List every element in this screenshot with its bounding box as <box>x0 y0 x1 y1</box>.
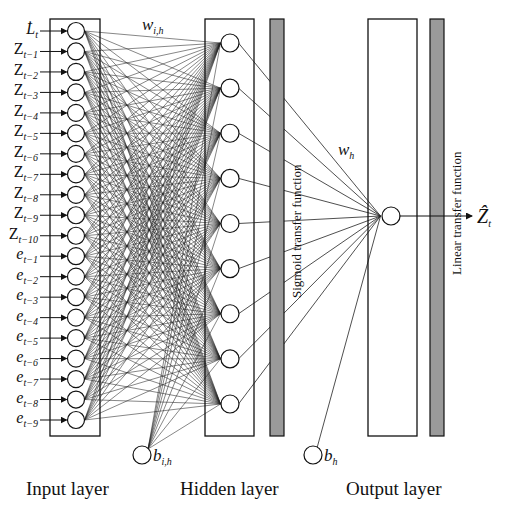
input-node <box>68 23 85 40</box>
hidden-node <box>221 34 239 52</box>
bias-node-ih <box>133 446 151 464</box>
sigmoid-transfer-label: Sigmoid transfer function <box>289 138 305 298</box>
input-node <box>68 43 85 60</box>
input-label-base: Z <box>14 184 24 201</box>
input-node <box>68 350 85 367</box>
input-label-sub: t−9 <box>23 213 38 224</box>
input-node <box>68 330 85 347</box>
bias-node-h <box>304 446 322 464</box>
output-label-base: Ẑ <box>477 205 488 227</box>
input-label-sub: t−4 <box>23 316 38 327</box>
input-label-sub: t−6 <box>23 152 38 163</box>
input-node <box>68 309 85 326</box>
weight-label-ih: wi,h <box>142 15 164 36</box>
hidden-node <box>221 124 239 142</box>
input-label-sub: t−7 <box>23 377 38 388</box>
input-node <box>68 84 85 101</box>
hidden-node <box>221 395 239 413</box>
input-label-sub: t−3 <box>23 90 38 101</box>
weight-ih-base: w <box>142 15 153 34</box>
input-node <box>68 227 85 244</box>
weight-h-sub: h <box>349 150 354 161</box>
input-node <box>68 104 85 121</box>
bias-ih-sub: i,h <box>162 456 172 467</box>
input-label: L̇t <box>26 21 38 43</box>
input-label-base: Z <box>14 61 24 78</box>
input-label-base: Z <box>14 204 24 221</box>
weight-ih-sub: i,h <box>153 25 163 36</box>
input-node <box>68 166 85 183</box>
linear-transfer-label: Linear transfer function <box>449 115 465 275</box>
input-label-base: Z <box>14 102 24 119</box>
output-layer-box <box>368 19 417 436</box>
input-arrows <box>40 31 472 420</box>
input-label-base: Z <box>14 122 24 139</box>
input-label-sub: t−2 <box>23 70 38 81</box>
hidden-node <box>221 350 239 368</box>
bias-label-ih: bi,h <box>153 446 172 467</box>
input-label-sub: t−2 <box>23 275 38 286</box>
hidden-node <box>221 79 239 97</box>
input-label-base: Z <box>14 40 24 57</box>
input-label-sub: t−6 <box>23 357 38 368</box>
input-node <box>68 207 85 224</box>
linear-bar <box>430 19 444 436</box>
input-label-sub: t−7 <box>23 172 38 183</box>
hidden-output-connections <box>239 43 381 448</box>
output-layer-title: Output layer <box>346 478 442 500</box>
input-label-sub: t−1 <box>23 49 38 60</box>
input-label-sub: t−5 <box>23 336 38 347</box>
input-label-sub: t−10 <box>18 234 38 245</box>
input-node <box>68 268 85 285</box>
input-node <box>68 145 85 162</box>
output-label: Ẑt <box>477 205 491 229</box>
output-node <box>382 207 400 225</box>
input-label-sub: t−8 <box>23 193 38 204</box>
input-label-base: L̇ <box>26 20 35 37</box>
input-label-sub: t−1 <box>23 254 38 265</box>
input-label-sub: t <box>35 29 38 40</box>
input-node <box>68 186 85 203</box>
input-node <box>68 289 85 306</box>
input-label-sub: t−8 <box>23 398 38 409</box>
input-label-sub: t−5 <box>23 131 38 142</box>
input-node <box>68 248 85 265</box>
input-node <box>68 371 85 388</box>
input-label-base: Z <box>9 225 19 242</box>
hidden-layer-title: Hidden layer <box>180 478 279 500</box>
sigmoid-bar <box>270 19 284 436</box>
weight-h-base: w <box>338 140 349 159</box>
input-label-base: Z <box>14 143 24 160</box>
input-label-sub: t−3 <box>23 295 38 306</box>
input-node <box>68 391 85 408</box>
neural-network-diagram <box>0 0 509 506</box>
input-label: et−9 <box>16 410 38 432</box>
output-label-sub: t <box>488 218 491 229</box>
bias-h-base: b <box>324 446 333 465</box>
hidden-node <box>221 305 239 323</box>
bias-h-sub: h <box>333 456 338 467</box>
input-node <box>68 63 85 80</box>
input-label-sub: t−9 <box>23 418 38 429</box>
input-label-sub: t−4 <box>23 111 38 122</box>
bias-ih-base: b <box>153 446 162 465</box>
hidden-node <box>221 260 239 278</box>
input-hidden-connections <box>85 31 221 449</box>
weight-label-h: wh <box>338 140 354 161</box>
hidden-node <box>221 169 239 187</box>
input-label-base: Z <box>14 163 24 180</box>
input-node <box>68 412 85 429</box>
input-layer-title: Input layer <box>26 478 109 500</box>
input-node <box>68 125 85 142</box>
hidden-node <box>221 215 239 233</box>
bias-label-h: bh <box>324 446 338 467</box>
input-label-base: Z <box>14 81 24 98</box>
